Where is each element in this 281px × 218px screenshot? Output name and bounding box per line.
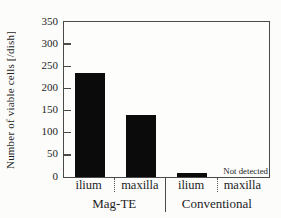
y-tick-label: 300 bbox=[14, 37, 58, 50]
bar-maxilla-1 bbox=[126, 115, 156, 177]
group-label-mag-te: Mag-TE bbox=[59, 196, 169, 211]
category-divider-dotted bbox=[114, 178, 115, 192]
y-tick-mark bbox=[64, 154, 71, 155]
y-tick-label: 350 bbox=[14, 15, 58, 28]
y-tick-mark bbox=[64, 110, 71, 111]
group-label-conventional: Conventional bbox=[162, 196, 272, 211]
y-tick-label: 0 bbox=[14, 170, 58, 183]
y-tick-mark bbox=[64, 66, 71, 67]
y-tick-mark bbox=[64, 88, 71, 89]
x-category-label: maxilla bbox=[212, 178, 272, 192]
bar-chart: Number of viable cells [/dish] Not detec… bbox=[0, 0, 281, 218]
y-tick-mark bbox=[64, 43, 71, 44]
y-tick-mark bbox=[64, 132, 71, 133]
y-tick-label: 250 bbox=[14, 59, 58, 72]
bar-ilium-0 bbox=[75, 73, 105, 177]
y-tick-label: 50 bbox=[14, 147, 58, 160]
not-detected-annotation: Not detected bbox=[223, 166, 268, 176]
y-tick-label: 100 bbox=[14, 125, 58, 138]
bar-ilium-2 bbox=[177, 173, 207, 177]
category-divider-dotted bbox=[217, 178, 218, 192]
y-tick-label: 200 bbox=[14, 81, 58, 94]
y-tick-label: 150 bbox=[14, 103, 58, 116]
plot-area: Not detected bbox=[63, 21, 270, 178]
